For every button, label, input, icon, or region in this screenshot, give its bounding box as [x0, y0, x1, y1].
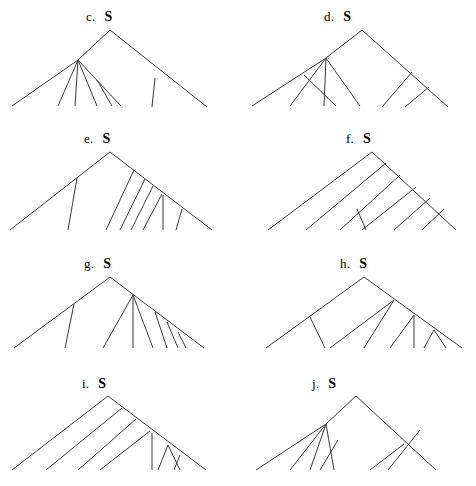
tree-branch [252, 58, 326, 106]
panel-c: c.S [0, 0, 238, 125]
tree-branch [356, 396, 436, 470]
panel-e: e.S [0, 125, 238, 250]
tree-branch [78, 60, 97, 106]
tree-branch [320, 440, 338, 470]
tree-branch [330, 300, 394, 348]
tree-branch [326, 396, 356, 424]
tree-branch [108, 396, 206, 470]
tree-branch [256, 424, 326, 470]
tree-branch [326, 424, 334, 470]
tree-branch [97, 80, 112, 106]
tree-branch [390, 315, 414, 348]
tree-branch [310, 317, 325, 348]
tree-branch [103, 295, 133, 348]
tree-branch [65, 304, 74, 348]
tree-branch [304, 75, 336, 106]
tree-branch [324, 58, 326, 106]
tree-branch [155, 312, 167, 348]
tree-branch [364, 277, 462, 348]
tree-branch [120, 179, 145, 230]
panel-j: j.S [238, 370, 476, 486]
tree-branch [131, 186, 153, 230]
tree-branch [78, 30, 110, 60]
tree-branch [106, 170, 134, 230]
panel-g: g.S [0, 250, 238, 370]
tree-branch [78, 419, 136, 470]
tree-branch [357, 209, 366, 230]
tree-branch [68, 178, 77, 230]
tree-branch [158, 445, 168, 470]
tree-branch [326, 58, 360, 106]
tree-branch [178, 332, 186, 348]
tree-branch [46, 408, 122, 470]
tree-branch [340, 175, 400, 230]
panel-f-tree [238, 125, 476, 250]
tree-branch [78, 60, 121, 106]
panel-j-tree [238, 370, 476, 486]
tree-branch [388, 430, 420, 470]
panel-g-tree [0, 250, 238, 370]
tree-branch [14, 277, 110, 348]
tree-branch [434, 330, 446, 348]
tree-branch [364, 300, 394, 348]
panel-h: h.S [238, 250, 476, 370]
tree-branch [10, 152, 110, 230]
tree-branch [290, 424, 326, 470]
tree-branch [362, 187, 416, 230]
tree-branch [110, 277, 204, 348]
panel-c-tree [0, 0, 238, 125]
panel-e-tree [0, 125, 238, 250]
tree-branch [362, 30, 448, 107]
tree-branch [100, 431, 150, 470]
tree-branch [422, 209, 444, 230]
tree-branch [110, 30, 207, 107]
tree-branch [152, 78, 155, 107]
panel-d: d.S [238, 0, 476, 125]
tree-branch [266, 277, 364, 348]
tree-branch [424, 330, 434, 348]
panel-f: f.S [238, 125, 476, 250]
tree-branch [394, 198, 430, 230]
tree-diagram-figure: c.S d.S e.S f.S g.S h.S i.S [0, 0, 476, 486]
tree-branch [382, 72, 412, 107]
panel-i: i.S [0, 370, 238, 486]
tree-branch [176, 209, 182, 230]
tree-branch [290, 58, 326, 106]
panel-h-tree [238, 250, 476, 370]
tree-branch [167, 322, 178, 348]
panel-d-tree [238, 0, 476, 125]
tree-branch [133, 295, 153, 348]
tree-branch [405, 87, 429, 107]
tree-branch [326, 30, 362, 58]
panel-i-tree [0, 370, 238, 486]
